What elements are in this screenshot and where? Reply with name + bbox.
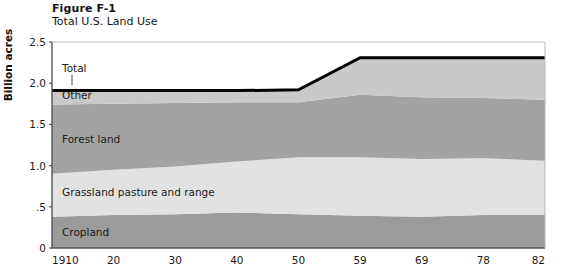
- y-tick-label: .5: [36, 201, 46, 213]
- series-label-forest-land: Forest land: [62, 133, 120, 145]
- series-label-grassland-pasture-and-range: Grassland pasture and range: [62, 186, 215, 198]
- y-tick-label: 1.5: [29, 118, 46, 130]
- y-tick-label: 2.0: [29, 77, 46, 89]
- area-chart: 0.51.01.52.02.5 19102030405059697882 Tot…: [0, 0, 564, 274]
- series-label-cropland: Cropland: [62, 226, 109, 238]
- y-tick-labels-group: 0.51.01.52.02.5: [29, 36, 52, 254]
- x-tick-label: 69: [415, 254, 428, 266]
- x-tick-label: 1910: [52, 254, 79, 266]
- stacked-areas-group: [52, 58, 545, 248]
- x-tick-label: 30: [169, 254, 182, 266]
- x-tick-label: 20: [107, 254, 120, 266]
- area-band-other: [52, 58, 545, 105]
- x-tick-label: 59: [353, 254, 366, 266]
- y-tick-label: 2.5: [29, 36, 46, 48]
- figure-container: Figure F-1 Total U.S. Land Use Billion a…: [0, 0, 564, 274]
- y-tick-label: 1.0: [29, 160, 46, 172]
- series-label-other: Other: [62, 89, 92, 101]
- x-tick-label: 40: [230, 254, 243, 266]
- x-tick-label: 82: [532, 254, 545, 266]
- y-tick-label: 0: [39, 242, 46, 254]
- area-band-cropland: [52, 213, 545, 248]
- x-tick-label: 50: [292, 254, 305, 266]
- x-tick-labels-group: 19102030405059697882: [52, 254, 545, 266]
- series-label-total: Total: [61, 62, 87, 74]
- x-tick-label: 78: [477, 254, 490, 266]
